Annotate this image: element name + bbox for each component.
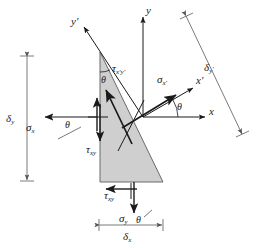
tau-xy-left-label: τxy xyxy=(86,143,97,157)
axis-group-xy-prime: x′ y′ xyxy=(70,15,204,117)
theta-bottom-label: θ xyxy=(136,214,141,225)
dimension-delta-y-prime: δy′ xyxy=(180,13,249,137)
theta-left-label: θ xyxy=(65,119,70,130)
x-prime-axis-line xyxy=(143,88,193,117)
sigma-x-prime-label: σx′ xyxy=(157,73,168,87)
angle-theta-axis: θ xyxy=(173,100,182,117)
sigma-y-label: σy xyxy=(119,212,128,226)
angle-theta-left: θ xyxy=(58,119,81,139)
angle-theta-bottom: θ xyxy=(136,210,152,225)
delta-y-prime-tick-bottom xyxy=(236,131,249,137)
delta-y-prime-arrow xyxy=(186,16,242,134)
tau-xpyp-label: τx′y′ xyxy=(112,62,126,76)
theta-axis-label: θ xyxy=(177,101,182,112)
theta-apex-label: θ xyxy=(101,74,106,85)
x-prime-axis-label: x′ xyxy=(195,74,204,86)
y-prime-axis-label: y′ xyxy=(70,15,79,27)
stress-sigma-x: σx xyxy=(26,117,97,135)
delta-x-label: δx xyxy=(123,230,132,244)
dimension-delta-y: δy xyxy=(6,56,34,181)
theta-bottom-leader xyxy=(144,210,152,217)
stress-tau-xy-bottom: τxy xyxy=(104,183,137,203)
tau-xy-bottom-label: τxy xyxy=(104,189,115,203)
sigma-x-label: σx xyxy=(26,121,35,135)
sigma-x-prime-arrow xyxy=(122,95,176,128)
stress-wedge-figure: δy δx δy′ x y x′ y′ θ xyxy=(0,0,263,248)
delta-y-label: δy xyxy=(6,112,15,126)
y-axis-label: y xyxy=(145,4,151,16)
x-axis-label: x xyxy=(208,105,214,117)
diagram-canvas: δy δx δy′ x y x′ y′ θ xyxy=(0,0,263,248)
delta-y-prime-label: δy′ xyxy=(204,61,214,75)
dimension-delta-x: δx xyxy=(99,219,163,244)
